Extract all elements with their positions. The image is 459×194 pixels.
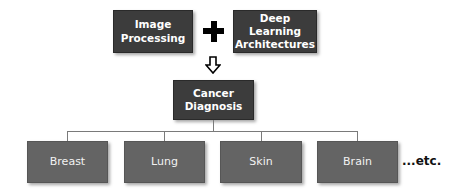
- deep-learning-label-line1: Deep Learning: [234, 12, 316, 38]
- image-processing-label-line2: Processing: [121, 32, 186, 45]
- category-breast-box: Breast: [27, 141, 108, 183]
- connector-horizontal: [67, 131, 358, 132]
- connector-breast: [67, 131, 68, 141]
- category-skin-label: Skin: [249, 155, 272, 169]
- cancer-diagnosis-label-line2: Diagnosis: [185, 100, 243, 113]
- connector-skin: [261, 131, 262, 141]
- down-arrow-icon: [205, 56, 221, 74]
- deep-learning-label-line2: Architectures: [235, 38, 315, 51]
- category-lung-label: Lung: [151, 155, 178, 169]
- cancer-diagnosis-box: Cancer Diagnosis: [173, 80, 254, 120]
- plus-icon: [203, 21, 224, 42]
- category-lung-box: Lung: [124, 141, 205, 183]
- category-breast-label: Breast: [50, 155, 85, 169]
- image-processing-box: Image Processing: [113, 10, 193, 53]
- category-brain-label: Brain: [343, 155, 372, 169]
- deep-learning-box: Deep Learning Architectures: [233, 10, 317, 53]
- image-processing-label-line1: Image: [135, 18, 172, 31]
- category-skin-box: Skin: [220, 141, 302, 183]
- connector-brain: [357, 131, 358, 141]
- continuation-text: ...etc.: [402, 154, 441, 168]
- cancer-diagnosis-label-line1: Cancer: [193, 87, 234, 100]
- connector-lung: [164, 131, 165, 141]
- category-brain-box: Brain: [317, 141, 398, 183]
